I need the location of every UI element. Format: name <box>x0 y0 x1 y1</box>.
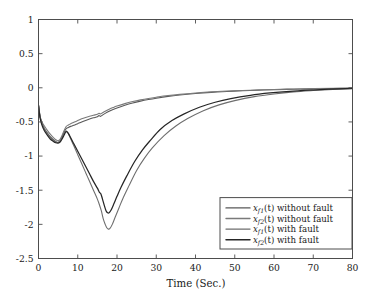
x-axis-title: Time (Sec.) <box>167 278 226 289</box>
y-tick-label: 0 <box>28 82 34 93</box>
y-tick-label: -2.5 <box>16 253 34 264</box>
x-tick-label: 80 <box>347 262 359 273</box>
y-tick-label: -1 <box>25 150 34 161</box>
y-tick-label: 0.5 <box>19 48 34 59</box>
x-tick-label: 40 <box>190 262 202 273</box>
x-tick-label: 10 <box>72 262 84 273</box>
chart-legend[interactable]: xf1(t) without faultxf2(t) without fault… <box>220 198 352 249</box>
x-tick-label: 70 <box>307 262 319 273</box>
x-tick-label: 20 <box>111 262 123 273</box>
y-tick-label: -0.5 <box>16 116 34 127</box>
x-tick-label: 60 <box>268 262 280 273</box>
figure-container: 01020304050607080 10.50-0.5-1-1.5-2-2.5 … <box>0 0 372 301</box>
y-tick-label: 1 <box>28 14 34 25</box>
chart-background <box>0 0 372 301</box>
x-tick-label: 30 <box>150 262 162 273</box>
x-tick-label: 0 <box>36 262 42 273</box>
line-chart: 01020304050607080 10.50-0.5-1-1.5-2-2.5 … <box>0 0 372 301</box>
y-tick-label: -1.5 <box>16 185 34 196</box>
x-tick-label: 50 <box>229 262 241 273</box>
y-tick-label: -2 <box>25 219 34 230</box>
